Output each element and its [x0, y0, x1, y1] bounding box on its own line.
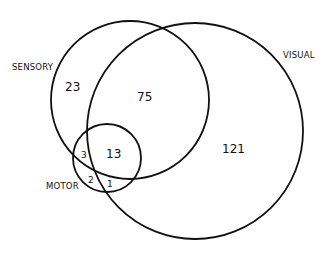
- visual-label: VISUAL: [283, 51, 315, 60]
- count-sensory-only: 23: [65, 81, 80, 93]
- count-all-three: 13: [106, 148, 121, 160]
- count-sensory-visual: 75: [137, 91, 152, 103]
- sensory-label: SENSORY: [12, 63, 53, 72]
- venn-diagram: [0, 0, 330, 256]
- count-visual-motor: 1: [107, 180, 113, 189]
- count-sensory-motor: 3: [81, 151, 87, 160]
- count-visual-only: 121: [222, 143, 245, 155]
- motor-label: MOTOR: [46, 182, 79, 191]
- count-motor-only: 2: [88, 176, 94, 185]
